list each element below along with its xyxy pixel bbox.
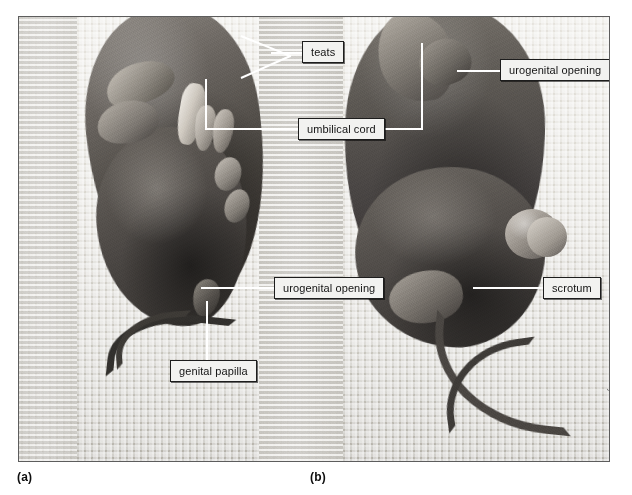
leader-urogenital-bottom xyxy=(201,287,275,289)
towel-band-left xyxy=(19,17,77,461)
callout-genital-papilla[interactable]: genital papilla xyxy=(170,360,257,382)
leader-scrotum xyxy=(473,287,544,289)
callout-umbilical-cord[interactable]: umbilical cord xyxy=(298,118,385,140)
leader-genital-papilla xyxy=(206,301,208,361)
specimen-b-scrotum-right xyxy=(527,217,567,257)
leader-umbilical-right-horizontal xyxy=(378,128,423,130)
leader-urogenital-top xyxy=(457,70,501,72)
callout-urogenital-opening-top[interactable]: urogenital opening xyxy=(500,59,610,81)
leader-umbilical-right-vertical xyxy=(421,43,423,130)
towel-band-center xyxy=(259,17,343,461)
callout-teats[interactable]: teats xyxy=(302,41,344,63)
leader-umbilical-left-horizontal xyxy=(205,128,299,130)
leader-teats-stem xyxy=(271,52,304,54)
sublabel-a: (a) xyxy=(17,470,32,484)
leader-umbilical-left-vertical xyxy=(205,79,207,129)
callout-scrotum[interactable]: scrotum xyxy=(543,277,601,299)
callout-urogenital-opening-bottom[interactable]: urogenital opening xyxy=(274,277,384,299)
figure-plate: teats urogenital opening umbilical cord … xyxy=(18,16,610,462)
sublabel-b: (b) xyxy=(310,470,326,484)
photo-credit: Photo by D. Morton xyxy=(608,363,610,427)
